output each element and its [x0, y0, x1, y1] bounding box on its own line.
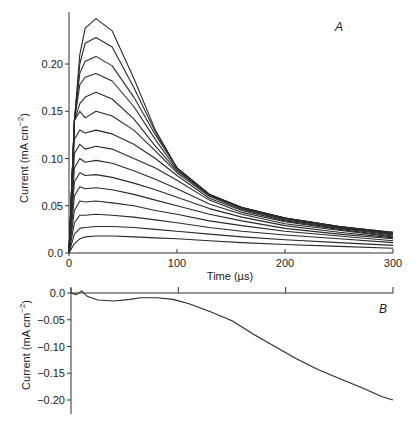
data-trace: [69, 236, 393, 253]
data-trace: [69, 38, 393, 254]
y-axis-title-b: Current (mA cm−2): [18, 300, 32, 390]
y-tick-label: 0.0: [50, 287, 65, 299]
x-tick-label: 300: [384, 257, 402, 269]
y-tick-label: 0.20: [42, 58, 63, 70]
data-trace: [69, 214, 393, 253]
y-tick-label: −0.10: [37, 341, 65, 353]
data-trace: [69, 73, 393, 253]
panel-a-plot: 0.00.050.100.150.200100200300: [42, 12, 403, 269]
y-tick-label: −0.20: [37, 394, 65, 406]
y-tick-label: 0.05: [42, 200, 63, 212]
data-trace: [69, 19, 393, 253]
data-trace: [69, 173, 393, 253]
figure: 0.00.050.100.150.200100200300 0.0−0.05−0…: [0, 0, 419, 434]
y-tick-label: −0.05: [37, 314, 65, 326]
panel-a-label: A: [334, 20, 343, 34]
panel-b-plot: 0.0−0.05−0.10−0.15−0.20: [37, 287, 393, 414]
x-axis-title: Time (µs): [207, 270, 253, 282]
data-trace: [71, 291, 393, 400]
x-tick-label: 0: [66, 257, 72, 269]
y-tick-label: 0.0: [48, 247, 63, 259]
panel-b-label: B: [379, 302, 387, 316]
y-tick-label: 0.15: [42, 105, 63, 117]
y-tick-label: 0.10: [42, 153, 63, 165]
x-tick-label: 100: [168, 257, 186, 269]
x-tick-label: 200: [276, 257, 294, 269]
y-axis-title-a: Current (mA cm−2): [16, 113, 30, 203]
y-tick-label: −0.15: [37, 367, 65, 379]
data-trace: [69, 111, 393, 253]
